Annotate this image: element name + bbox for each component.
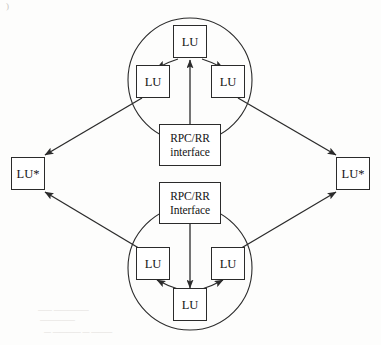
left-external-lu-star-node: LU* [11, 157, 45, 190]
top-right-lu-label: LU [220, 75, 237, 89]
left-external-lu-star-label: LU* [17, 167, 40, 181]
bottom-right-lu-node: LU [211, 247, 245, 280]
bottom-center-lu-label: LU [182, 298, 199, 312]
top-center-lu-node: LU [173, 25, 207, 58]
top-center-lu-label: LU [182, 35, 199, 49]
corner-scan-artifact: ) [6, 1, 9, 11]
bottom-left-lu-node: LU [136, 247, 170, 280]
bottom-rpc-rr-interface-line1: RPC/RR [170, 190, 210, 203]
top-rpc-rr-interface-node: RPC/RR interface [159, 124, 221, 166]
right-external-lu-star-node: LU* [336, 157, 370, 190]
network-diagram-figure: LU LU LU RPC/RR interface RPC/RR Interfa… [0, 0, 381, 345]
edge-top-right-lu-to-right-external [238, 98, 336, 155]
bleed-through-artifact-1: —— ————— [38, 306, 89, 314]
bottom-right-lu-label: LU [220, 257, 237, 271]
bottom-rpc-rr-interface-line2: Interface [170, 204, 210, 217]
top-rpc-rr-interface-line2: interface [170, 146, 209, 159]
bleed-through-artifact-2: ————— [40, 316, 75, 324]
top-rpc-rr-interface-line1: RPC/RR [170, 132, 210, 145]
edge-bottom-left-lu-to-left-external [45, 192, 142, 250]
bottom-center-lu-node: LU [173, 288, 207, 321]
bottom-rpc-rr-interface-node: RPC/RR Interface [159, 182, 221, 224]
edge-bottom-right-lu-to-right-external [238, 192, 336, 250]
top-left-lu-node: LU [136, 65, 170, 98]
top-right-lu-node: LU [211, 65, 245, 98]
bleed-through-artifact-3: — ———— — ——— [44, 328, 112, 336]
bottom-left-lu-label: LU [145, 257, 162, 271]
edge-top-left-lu-to-left-external [45, 98, 142, 155]
right-external-lu-star-label: LU* [342, 167, 365, 181]
top-left-lu-label: LU [145, 75, 162, 89]
